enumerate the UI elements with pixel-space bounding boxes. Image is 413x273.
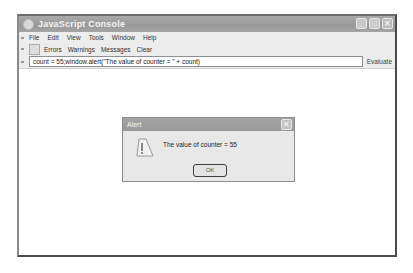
code-input[interactable]: count = 55;window.alert("The value of co… (29, 56, 363, 67)
alert-message: The value of counter = 55 (163, 141, 237, 148)
maximize-button[interactable]: □ (369, 18, 380, 29)
alert-dialog: Alert ✕ The value of counter = 55 OK (122, 117, 295, 182)
alert-title-bar[interactable]: Alert (123, 118, 294, 131)
menu-window[interactable]: Window (112, 34, 135, 41)
app-icon (23, 19, 34, 30)
clear-button[interactable]: Clear (137, 46, 153, 53)
menu-edit[interactable]: Edit (47, 34, 58, 41)
alert-close-button[interactable]: ✕ (281, 119, 292, 130)
window-controls: _ □ ✕ (356, 18, 393, 29)
errors-button[interactable]: Errors (44, 46, 62, 53)
evaluate-button[interactable]: Evaluate (367, 58, 392, 65)
grip-handle-icon[interactable] (21, 48, 24, 50)
toolbar: Errors Warnings Messages Clear (19, 43, 395, 55)
menu-view[interactable]: View (67, 34, 81, 41)
grip-handle-icon[interactable] (21, 37, 24, 39)
ok-button[interactable]: OK (193, 164, 227, 177)
warning-icon (136, 138, 156, 158)
window-title: JavaScript Console (38, 19, 125, 29)
evaluate-bar: count = 55;window.alert("The value of co… (19, 55, 395, 69)
menu-file[interactable]: File (29, 34, 39, 41)
menu-help[interactable]: Help (143, 34, 156, 41)
close-button[interactable]: ✕ (382, 18, 393, 29)
warnings-button[interactable]: Warnings (68, 46, 95, 53)
all-messages-icon[interactable] (29, 44, 40, 55)
grip-handle-icon[interactable] (21, 61, 24, 63)
minimize-button[interactable]: _ (356, 18, 367, 29)
title-bar[interactable]: JavaScript Console _ □ ✕ (19, 16, 395, 32)
alert-title: Alert (127, 121, 141, 128)
menu-tools[interactable]: Tools (89, 34, 104, 41)
menu-bar: File Edit View Tools Window Help (19, 32, 395, 43)
messages-button[interactable]: Messages (101, 46, 131, 53)
